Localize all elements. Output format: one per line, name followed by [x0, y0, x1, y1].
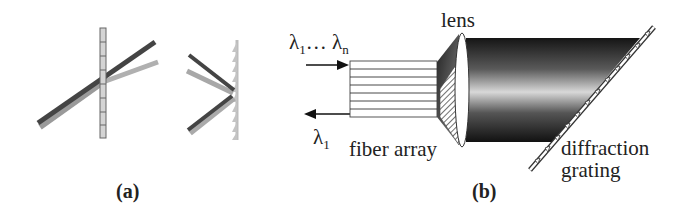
fiber-array — [350, 61, 437, 117]
input-arrow-icon — [337, 60, 349, 70]
output-wavelength-label: λ1 — [313, 125, 330, 153]
grating-label-line2: grating — [561, 159, 649, 181]
panel-a-label: (a) — [116, 180, 139, 203]
incident-beam-light — [40, 82, 103, 127]
input-wavelengths-label: λ1… λn — [289, 30, 349, 58]
grating-label-line1: diffraction — [561, 137, 649, 159]
transmission-grating — [100, 28, 106, 138]
fiber-array-label: fiber array — [349, 137, 437, 162]
grating-label: diffraction grating — [561, 137, 649, 181]
collimated-beam — [466, 38, 640, 142]
lens-label: lens — [441, 8, 475, 33]
output-arrow-icon — [304, 109, 316, 119]
lens — [455, 33, 469, 147]
panel-b-label: (b) — [472, 180, 496, 203]
reflection-grating-group — [187, 40, 237, 140]
transmission-grating-group — [38, 28, 158, 138]
beam-dark — [38, 42, 155, 123]
